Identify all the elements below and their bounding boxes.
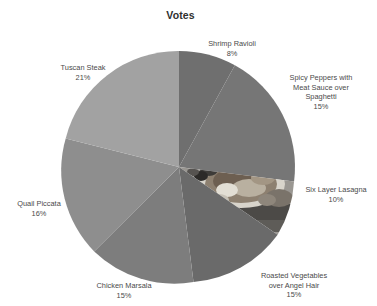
pie-label-chicken-marsala-name: Chicken Marsala	[96, 281, 151, 290]
pie-graphic	[0, 0, 377, 306]
pie-label-quail-piccata-name: Quail Piccata	[17, 199, 61, 208]
pie-label-roasted-vegetables-name: Roasted Vegetables over Angel Hair	[261, 271, 327, 289]
pie-label-chicken-marsala: Chicken Marsala 15%	[78, 272, 170, 306]
pie-label-tuscan-steak: Tuscan Steak 21%	[42, 54, 124, 92]
pie-label-quail-piccata: Quail Piccata 16%	[4, 190, 74, 228]
pie-label-shrimp-ravioli: Shrimp Ravioli 8%	[196, 30, 268, 68]
pie-chart-figure: Votes	[0, 0, 377, 306]
pie-label-spicy-peppers: Spicy Peppers with Meat Sauce over Spagh…	[272, 64, 370, 120]
pie-label-tuscan-steak-pct: 21%	[42, 73, 124, 82]
pie-label-tuscan-steak-name: Tuscan Steak	[61, 63, 106, 72]
pie-label-quail-piccata-pct: 16%	[4, 209, 74, 218]
pie-label-six-layer-lasagna-pct: 10%	[296, 195, 376, 204]
pie-label-chicken-marsala-pct: 15%	[78, 291, 170, 300]
pie-label-roasted-vegetables: Roasted Vegetables over Angel Hair 15%	[248, 262, 340, 306]
pie-label-spicy-peppers-name: Spicy Peppers with Meat Sauce over Spagh…	[290, 73, 353, 101]
pie-label-shrimp-ravioli-pct: 8%	[196, 49, 268, 58]
pie-label-roasted-vegetables-pct: 15%	[248, 290, 340, 299]
pie-label-spicy-peppers-pct: 15%	[272, 102, 370, 111]
pie-label-six-layer-lasagna: Six Layer Lasagna 10%	[296, 176, 376, 214]
pie-label-shrimp-ravioli-name: Shrimp Ravioli	[208, 39, 256, 48]
pie-label-six-layer-lasagna-name: Six Layer Lasagna	[305, 185, 366, 194]
